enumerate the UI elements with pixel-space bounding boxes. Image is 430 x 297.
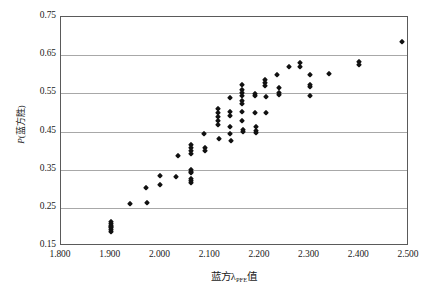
data-point — [227, 123, 233, 129]
data-point — [216, 136, 222, 142]
y-tick-label: 0.75 — [10, 11, 56, 21]
data-point — [306, 72, 312, 78]
data-point — [306, 93, 312, 99]
x-axis-label-post: 值 — [247, 271, 257, 282]
data-point — [227, 113, 233, 119]
y-axis-label-symbol: P — [16, 138, 26, 144]
plot-area — [60, 16, 408, 245]
data-point — [157, 173, 163, 179]
data-point — [228, 138, 234, 144]
data-point — [175, 153, 181, 159]
data-point — [143, 200, 149, 206]
y-tick-label: 0.55 — [10, 88, 56, 98]
x-tick-label: 2.500 — [378, 250, 430, 260]
gridline — [61, 170, 407, 171]
y-tick-label: 0.65 — [10, 49, 56, 59]
x-axis-label-subscript: PFE — [236, 276, 247, 283]
data-point — [239, 118, 245, 124]
data-point — [326, 71, 332, 77]
data-point — [227, 95, 233, 101]
data-point — [252, 110, 258, 116]
data-point — [142, 185, 148, 191]
chart-figure: P(蓝方胜) 0.150.250.350.450.550.650.75 1.80… — [0, 0, 430, 297]
gridline — [61, 55, 407, 56]
data-point — [214, 122, 220, 128]
data-point — [188, 151, 194, 157]
data-point — [239, 101, 245, 107]
gridline — [61, 93, 407, 94]
data-point — [286, 64, 292, 70]
data-point — [173, 173, 179, 179]
data-point — [239, 109, 245, 115]
x-axis-label: 蓝方λPFE值 — [60, 268, 408, 283]
data-point — [263, 110, 269, 116]
y-tick-label: 0.25 — [10, 202, 56, 212]
gridline — [61, 208, 407, 209]
data-point — [356, 62, 362, 68]
data-point — [127, 201, 133, 207]
data-point — [274, 72, 280, 78]
data-point — [297, 64, 303, 70]
x-axis-label-pre: 蓝方 — [211, 271, 231, 282]
gridline — [61, 132, 407, 133]
data-point — [263, 94, 269, 100]
data-point — [306, 84, 312, 90]
y-tick-label: 0.45 — [10, 126, 56, 136]
y-tick-label: 0.35 — [10, 164, 56, 174]
data-point — [157, 182, 163, 188]
data-point — [398, 39, 404, 45]
data-point — [202, 147, 208, 153]
